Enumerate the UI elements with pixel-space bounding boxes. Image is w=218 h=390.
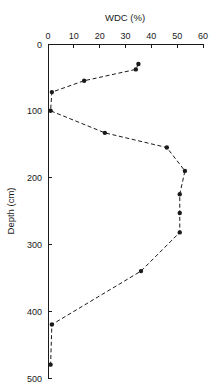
data-point bbox=[82, 79, 86, 83]
data-point bbox=[48, 109, 52, 113]
data-point bbox=[50, 322, 54, 326]
chart-figure: 0102030405060 WDC (%) 0100200300400500 D… bbox=[0, 0, 218, 390]
x-tick-label: 10 bbox=[69, 31, 79, 41]
y-tick-label: 100 bbox=[27, 106, 42, 116]
y-tick-label: 300 bbox=[27, 240, 42, 250]
data-point bbox=[165, 145, 169, 149]
data-point bbox=[50, 90, 54, 94]
x-tick-label: 40 bbox=[146, 31, 156, 41]
x-tick-label: 30 bbox=[120, 31, 130, 41]
x-tick-label: 20 bbox=[95, 31, 105, 41]
data-point bbox=[48, 362, 52, 366]
y-tick-label: 200 bbox=[27, 173, 42, 183]
x-tick-label: 0 bbox=[45, 31, 50, 41]
plot-background bbox=[0, 0, 218, 390]
x-tick-label: 60 bbox=[198, 31, 208, 41]
data-point bbox=[178, 230, 182, 234]
data-point bbox=[103, 131, 107, 135]
wdc-depth-line-chart: 0102030405060 WDC (%) 0100200300400500 D… bbox=[0, 0, 218, 390]
data-point bbox=[136, 62, 140, 66]
y-tick-label: 0 bbox=[37, 40, 42, 50]
data-point bbox=[183, 169, 187, 173]
y-tick-label: 500 bbox=[27, 374, 42, 384]
data-point bbox=[178, 211, 182, 215]
x-tick-label: 50 bbox=[172, 31, 182, 41]
y-tick-label: 400 bbox=[27, 307, 42, 317]
x-axis-title: WDC (%) bbox=[105, 12, 145, 23]
data-point bbox=[134, 67, 138, 71]
y-axis-title: Depth (cm) bbox=[5, 188, 16, 235]
data-point bbox=[139, 269, 143, 273]
data-point bbox=[178, 192, 182, 196]
